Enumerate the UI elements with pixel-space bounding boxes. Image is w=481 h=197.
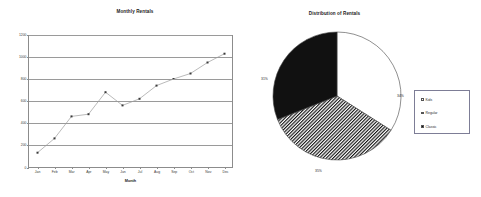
pie-plot-area: 31% 34% 35% bbox=[267, 30, 412, 175]
data-point-marker bbox=[156, 84, 158, 86]
x-tick-mark bbox=[225, 167, 226, 169]
x-tick-label: Dec bbox=[222, 170, 228, 174]
gridline bbox=[29, 79, 233, 80]
pie-label-regular: 35% bbox=[315, 169, 322, 173]
y-tick-label: 400 bbox=[21, 121, 27, 125]
y-tick-label: 200 bbox=[21, 143, 27, 147]
data-point-marker bbox=[207, 61, 209, 63]
line-chart-plot-area: 020040060080010001200JanFebMarAprMayJunJ… bbox=[28, 35, 233, 168]
line-series-path bbox=[37, 53, 224, 152]
gridline bbox=[29, 57, 233, 58]
legend-item-classic: Classic bbox=[421, 125, 437, 129]
legend-swatch-regular-icon bbox=[421, 112, 424, 115]
data-point-marker bbox=[105, 91, 107, 93]
x-tick-label: Nov bbox=[205, 170, 211, 174]
x-tick-label: Feb bbox=[52, 170, 58, 174]
x-tick-label: Jul bbox=[138, 170, 142, 174]
y-tick-mark bbox=[27, 57, 29, 58]
x-tick-mark bbox=[174, 167, 175, 169]
y-tick-label: 600 bbox=[21, 99, 27, 103]
x-tick-label: Sep bbox=[171, 170, 177, 174]
y-tick-label: 800 bbox=[21, 77, 27, 81]
distribution-of-rentals-pie-chart: Distribution of Rentals 31% 34% 35% Kids bbox=[255, 0, 481, 197]
line-chart-title: Monthly Rentals bbox=[95, 9, 175, 14]
x-tick-mark bbox=[72, 167, 73, 169]
x-tick-mark bbox=[191, 167, 192, 169]
x-tick-mark bbox=[38, 167, 39, 169]
x-tick-label: May bbox=[103, 170, 109, 174]
y-tick-mark bbox=[27, 35, 29, 36]
data-point-marker bbox=[71, 115, 73, 117]
y-tick-label: 1000 bbox=[19, 55, 27, 59]
x-tick-label: Apr bbox=[86, 170, 91, 174]
x-axis-title: Month bbox=[28, 179, 233, 183]
x-tick-mark bbox=[157, 167, 158, 169]
data-point-marker bbox=[54, 137, 56, 139]
x-tick-label: Aug bbox=[154, 170, 160, 174]
y-tick-label: 1200 bbox=[19, 33, 27, 37]
pie-legend: Kids Regular Classic bbox=[414, 90, 470, 134]
data-point-marker bbox=[88, 113, 90, 115]
legend-label-classic: Classic bbox=[426, 125, 437, 129]
gridline bbox=[29, 145, 233, 146]
y-tick-mark bbox=[27, 101, 29, 102]
gridline bbox=[29, 101, 233, 102]
data-point-marker bbox=[139, 97, 141, 99]
x-tick-mark bbox=[140, 167, 141, 169]
data-point-marker bbox=[224, 52, 226, 54]
pie-slices-svg bbox=[267, 30, 412, 175]
x-tick-label: Oct bbox=[189, 170, 194, 174]
x-tick-mark bbox=[123, 167, 124, 169]
data-point-marker bbox=[37, 151, 39, 153]
legend-swatch-kids-icon bbox=[421, 98, 424, 101]
y-tick-mark bbox=[27, 145, 29, 146]
plot-right-border bbox=[232, 35, 233, 167]
spreadsheet-chart-figure: Monthly Rentals 020040060080010001200Jan… bbox=[0, 0, 481, 197]
pie-label-classic: 31% bbox=[261, 77, 268, 81]
y-tick-mark bbox=[27, 168, 29, 169]
x-tick-mark bbox=[106, 167, 107, 169]
pie-label-kids: 34% bbox=[397, 94, 404, 98]
pie-chart-title: Distribution of Rentals bbox=[292, 11, 377, 16]
gridline bbox=[29, 123, 233, 124]
monthly-rentals-line-chart: Monthly Rentals 020040060080010001200Jan… bbox=[0, 0, 255, 197]
data-point-marker bbox=[122, 104, 124, 106]
x-tick-label: Mar bbox=[69, 170, 75, 174]
x-tick-mark bbox=[55, 167, 56, 169]
legend-item-regular: Regular bbox=[421, 111, 437, 115]
legend-label-kids: Kids bbox=[426, 98, 433, 102]
legend-item-kids: Kids bbox=[421, 98, 432, 102]
y-tick-mark bbox=[27, 79, 29, 80]
data-point-marker bbox=[190, 72, 192, 74]
x-tick-label: Jun bbox=[120, 170, 125, 174]
x-tick-mark bbox=[208, 167, 209, 169]
legend-label-regular: Regular bbox=[426, 111, 438, 115]
y-tick-mark bbox=[27, 123, 29, 124]
x-tick-mark bbox=[89, 167, 90, 169]
y-tick-label: 0 bbox=[25, 166, 27, 170]
gridline bbox=[29, 35, 233, 36]
legend-swatch-classic-icon bbox=[421, 125, 424, 128]
x-tick-label: Jan bbox=[35, 170, 40, 174]
